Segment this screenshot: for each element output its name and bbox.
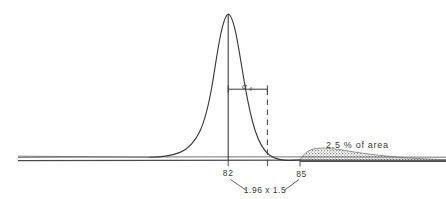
sigma-measure-bar	[228, 85, 267, 93]
interval-callout-label: 1.96 x 1.5	[244, 185, 286, 195]
critical-region-shading	[300, 148, 446, 161]
normal-curve-path	[150, 14, 300, 160]
axis-label-82: 82	[223, 168, 234, 178]
sigma-subscript-label: x̄	[248, 86, 252, 92]
normal-curve	[18, 14, 300, 160]
axis-label-85: 85	[296, 169, 307, 179]
normal-distribution-figure: σ x̄ 82 85 1.96 x 1.5 2.5 % of area	[0, 0, 446, 199]
baseline-lower-stroke	[18, 160, 446, 161]
area-percent-label: 2.5 % of area	[326, 140, 389, 150]
leader-line-right	[284, 180, 299, 191]
sigma-label-group: σ x̄	[242, 82, 252, 93]
distribution-chart-svg: σ x̄ 82 85 1.96 x 1.5 2.5 % of area	[0, 0, 446, 199]
